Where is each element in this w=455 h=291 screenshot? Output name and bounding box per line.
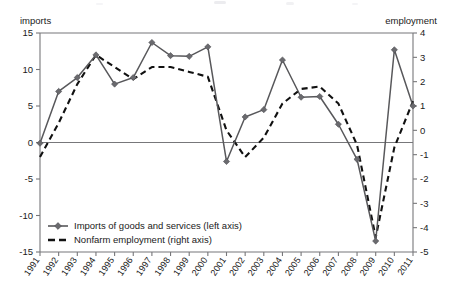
left-tick-label: 5 [28,100,33,111]
year-label: 2002 [227,255,247,277]
data-series-group [37,39,416,244]
year-label: 1994 [78,255,98,277]
right-tick-label: -3 [420,198,428,209]
year-label: 2005 [283,255,303,277]
year-label: 2003 [246,255,266,277]
right-tick-label: 2 [420,76,425,87]
series-line-nonfarm-employment [40,55,413,238]
legend-item: Nonfarm employment (right axis) [48,234,212,245]
right-tick-label: -4 [420,222,428,233]
x-axis-year-labels: 1991199219931994199519961997199819992000… [22,255,415,277]
right-axis-ticks: 43210-1-2-3-4-5 [413,27,428,257]
right-tick-label: -5 [420,246,428,257]
right-tick-label: 4 [420,27,425,38]
left-tick-label: -15 [19,246,33,257]
year-label: 2011 [395,255,414,277]
right-tick-label: 1 [420,100,425,111]
chart-container: imports employment 151050-5-10-15 43210-… [0,0,455,291]
data-point-marker [242,114,248,120]
left-tick-label: -10 [19,210,33,221]
year-label: 1999 [171,255,191,277]
legend-label: Imports of goods and services (left axis… [74,220,242,231]
year-label: 2000 [190,255,210,277]
data-point-marker [223,158,229,164]
year-label: 1998 [153,255,173,277]
data-point-marker [130,74,136,80]
data-point-marker [279,57,285,63]
year-label: 2009 [358,255,378,277]
year-label: 2007 [320,255,340,277]
year-label: 2006 [302,255,322,277]
year-label: 2008 [339,255,359,277]
left-axis-ticks: 151050-5-10-15 [19,27,40,257]
left-tick-label: 10 [22,64,33,75]
imports-employment-line-chart: imports employment 151050-5-10-15 43210-… [0,0,455,291]
chart-legend: Imports of goods and services (left axis… [48,220,242,245]
series-line-imports [40,42,413,241]
year-label: 1993 [59,255,79,277]
year-label: 2001 [208,255,228,277]
year-label: 1991 [22,255,42,277]
year-label: 1996 [115,255,135,277]
year-label: 1997 [134,255,154,277]
left-tick-label: 15 [22,27,33,38]
right-tick-label: -1 [420,149,428,160]
data-point-marker [373,238,379,244]
right-tick-label: 3 [420,52,425,63]
legend-swatch-diamond-marker [55,223,62,230]
right-tick-label: -2 [420,173,428,184]
data-point-marker [261,107,267,113]
legend-label: Nonfarm employment (right axis) [74,234,212,245]
data-point-marker [298,94,304,100]
right-axis-caption: employment [385,15,437,26]
year-label: 2010 [376,255,396,277]
x-axis-ticks [40,252,413,256]
year-label: 1992 [41,255,61,277]
left-tick-label: -5 [25,173,33,184]
left-tick-label: 0 [28,137,33,148]
data-point-marker [37,140,43,146]
year-label: 2004 [264,255,284,277]
left-axis-caption: imports [20,15,51,26]
year-label: 1995 [97,255,117,277]
data-point-marker [186,53,192,59]
legend-item: Imports of goods and services (left axis… [48,220,242,231]
data-point-marker [391,47,397,53]
data-point-marker [205,44,211,50]
scan-artifacts [96,1,358,5]
right-tick-label: 0 [420,125,425,136]
